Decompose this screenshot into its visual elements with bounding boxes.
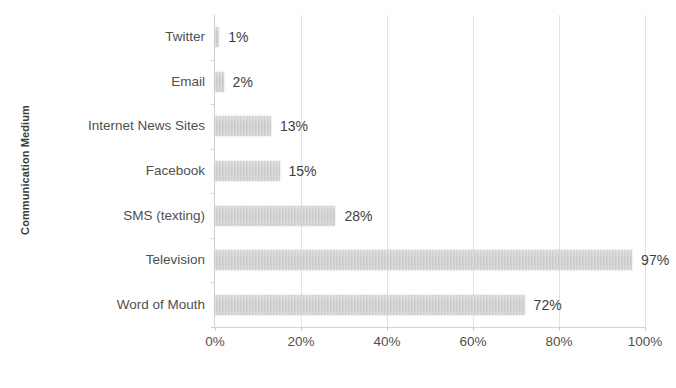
bar [215, 295, 525, 315]
bar [215, 27, 219, 47]
gridline [473, 15, 474, 327]
bar [215, 72, 224, 92]
x-axis-tick-label: 0% [180, 334, 250, 349]
x-axis-tick-label: 100% [610, 334, 676, 349]
bar-value-label: 97% [641, 250, 669, 270]
bar [215, 116, 271, 136]
category-axis-labels: TwitterEmailInternet News SitesFacebookS… [30, 15, 205, 327]
x-axis-tick-mark [559, 327, 560, 331]
x-axis-tick-mark [215, 327, 216, 331]
bar-chart: Communication Medium TwitterEmailInterne… [0, 0, 676, 388]
category-label: Email [30, 74, 205, 90]
x-axis-line [214, 327, 646, 328]
bar-value-label: 15% [289, 161, 317, 181]
bar-value-label: 13% [280, 116, 308, 136]
plot-area: 1%2%13%15%28%97%72% [215, 15, 645, 327]
bar-value-label: 1% [228, 27, 248, 47]
y-axis-tick-mark [211, 149, 215, 150]
bar [215, 206, 335, 226]
x-axis-tick-mark [473, 327, 474, 331]
x-axis-tick-mark [387, 327, 388, 331]
x-axis-tick-label: 40% [352, 334, 422, 349]
gridline [559, 15, 560, 327]
y-axis-tick-mark [211, 104, 215, 105]
category-label: Facebook [30, 163, 205, 179]
category-label: Internet News Sites [30, 118, 205, 134]
category-label: Word of Mouth [30, 297, 205, 313]
y-axis-tick-mark [211, 238, 215, 239]
bar-value-label: 2% [233, 72, 253, 92]
gridline [387, 15, 388, 327]
x-axis-tick-label: 80% [524, 334, 594, 349]
category-label: Television [30, 252, 205, 268]
bar [215, 161, 280, 181]
category-label: Twitter [30, 29, 205, 45]
gridline [645, 15, 646, 327]
x-axis-tick-mark [645, 327, 646, 331]
y-axis-tick-mark [211, 327, 215, 328]
bar-value-label: 28% [344, 206, 372, 226]
bar [215, 250, 632, 270]
y-axis-tick-mark [211, 282, 215, 283]
x-axis-tick-labels: 0%20%40%60%80%100% [215, 334, 645, 356]
x-axis-tick-mark [301, 327, 302, 331]
y-axis-tick-mark [211, 193, 215, 194]
category-label: SMS (texting) [30, 208, 205, 224]
bar-value-label: 72% [534, 295, 562, 315]
y-axis-tick-mark [211, 60, 215, 61]
x-axis-tick-label: 20% [266, 334, 336, 349]
x-axis-tick-label: 60% [438, 334, 508, 349]
